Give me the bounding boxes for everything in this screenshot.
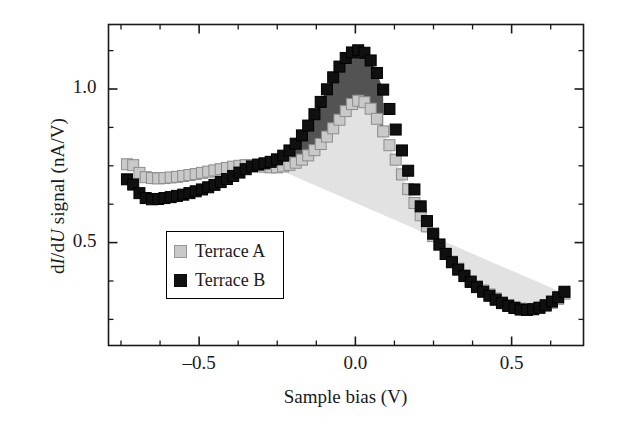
data-point — [371, 113, 382, 124]
x-tick-label: 0.0 — [325, 352, 385, 374]
data-point — [390, 124, 401, 135]
legend-swatch-terrace-b — [174, 274, 187, 287]
data-point — [371, 68, 382, 79]
data-point — [303, 120, 314, 131]
legend-item-terrace-a: Terrace A — [174, 238, 265, 264]
data-point — [328, 72, 339, 83]
y-tick-label: 1.0 — [51, 76, 97, 98]
data-point — [421, 216, 432, 227]
data-point — [378, 84, 389, 95]
data-point — [384, 103, 395, 114]
legend-item-terrace-b: Terrace B — [174, 267, 265, 293]
data-point — [384, 140, 395, 151]
data-point — [428, 228, 439, 239]
legend: Terrace A Terrace B — [166, 231, 284, 299]
figure: dI/dU signal (nA/V) Sample bias (V) 0.51… — [0, 0, 617, 427]
legend-swatch-terrace-a — [174, 245, 187, 258]
data-point — [559, 286, 570, 297]
x-axis-label: Sample bias (V) — [108, 386, 583, 408]
series-fills — [274, 50, 565, 309]
data-point — [309, 109, 320, 120]
legend-label-terrace-b: Terrace B — [195, 271, 265, 289]
data-point — [415, 201, 426, 212]
x-tick-label: 0.5 — [482, 352, 542, 374]
data-point — [365, 55, 376, 66]
data-point — [403, 165, 414, 176]
data-point — [378, 126, 389, 137]
data-point — [409, 184, 420, 195]
data-point — [396, 145, 407, 156]
data-point — [315, 96, 326, 107]
x-tick-label: –0.5 — [169, 352, 229, 374]
y-tick-label: 0.5 — [51, 230, 97, 252]
data-point — [321, 84, 332, 95]
data-point — [365, 103, 376, 114]
legend-label-terrace-a: Terrace A — [195, 242, 265, 260]
